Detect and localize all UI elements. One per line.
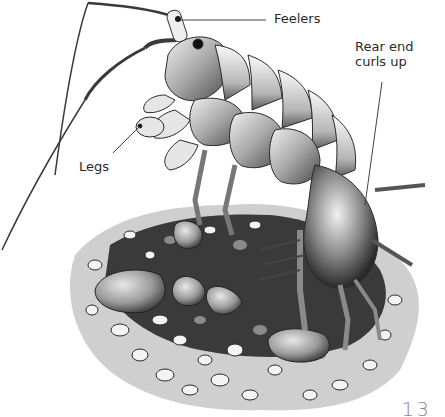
label-legs: Legs <box>79 159 109 174</box>
page-number: 13 <box>402 397 431 417</box>
label-rear-end: Rear end curls up <box>355 39 435 69</box>
label-feelers: Feelers <box>274 11 321 26</box>
